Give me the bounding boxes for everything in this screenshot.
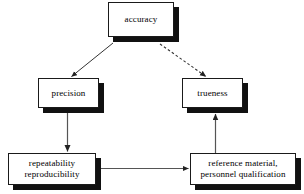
edge-accuracy-to-trueness	[160, 44, 206, 77]
node-trueness[interactable]: trueness	[182, 78, 243, 108]
node-accuracy-label: accuracy	[109, 14, 173, 25]
node-repeatability-label: repeatability reproducibility	[9, 158, 95, 180]
node-repeatability[interactable]: repeatability reproducibility	[8, 153, 96, 185]
node-reference-material-label: reference material, personnel qualificat…	[191, 158, 295, 180]
node-reference-material[interactable]: reference material, personnel qualificat…	[190, 153, 296, 185]
node-precision-label: precision	[39, 88, 98, 99]
node-accuracy[interactable]: accuracy	[108, 2, 174, 37]
node-trueness-label: trueness	[183, 88, 242, 99]
diagram-canvas: accuracy precision trueness repeatabilit…	[0, 0, 304, 194]
node-precision[interactable]: precision	[38, 78, 99, 108]
edge-accuracy-to-precision	[72, 43, 114, 77]
